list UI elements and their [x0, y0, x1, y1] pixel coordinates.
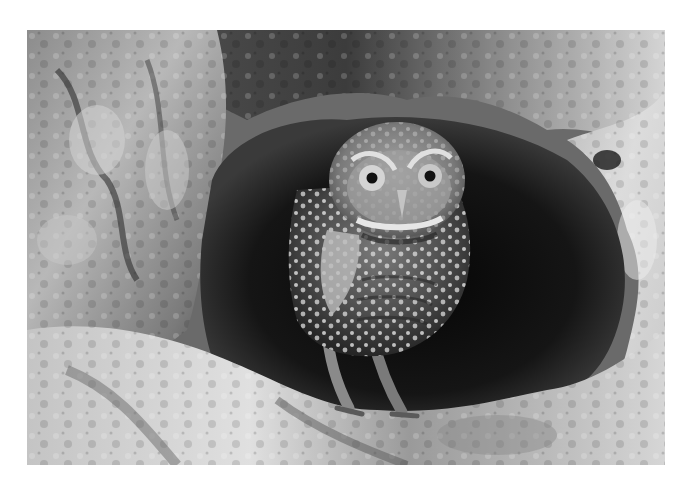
- page: [0, 0, 696, 488]
- owl-photograph: [27, 30, 665, 465]
- photo-canvas: [27, 30, 665, 465]
